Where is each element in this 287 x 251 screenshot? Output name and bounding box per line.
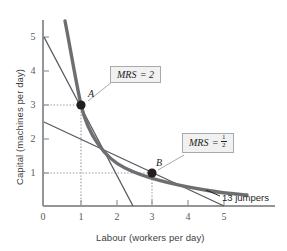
- tangent-line-at-a: [44, 37, 133, 206]
- mrs-callout-b: MRS = 1 2: [182, 133, 234, 153]
- y-tick-label-4: 4: [28, 66, 38, 76]
- x-tick-label-3: 3: [147, 212, 157, 222]
- isoquant-curve: [65, 21, 247, 195]
- x-axis-title: Labour (workers per day): [96, 232, 205, 243]
- mrs-a-value: 2: [149, 69, 154, 80]
- point-label-a: A: [88, 88, 94, 99]
- guide-lines-point-b: [44, 173, 152, 205]
- x-tick-label-4: 4: [183, 212, 193, 222]
- mrs-callout-a: MRS = 2: [110, 66, 161, 83]
- mrs-a-equals: =: [140, 69, 146, 80]
- mrs-b-fraction: 1 2: [221, 134, 227, 149]
- y-tick-label-2: 2: [28, 134, 38, 144]
- data-point-b: [147, 168, 156, 177]
- x-tick-label-0: 0: [38, 212, 48, 222]
- y-axis-title: Capital (machines per day): [14, 69, 25, 185]
- isoquant-chart-figure: 5 4 3 2 1 0 1 2 3 4 5 Capital (machines …: [0, 0, 287, 251]
- point-label-b: B: [156, 157, 162, 168]
- axes-group: [43, 20, 275, 206]
- mrs-b-equals: =: [212, 137, 218, 148]
- x-tick-label-5: 5: [219, 212, 229, 222]
- mrs-b-label: MRS: [189, 137, 208, 148]
- data-point-a: [76, 100, 85, 109]
- isoquant-curve-label: 13 jumpers: [222, 192, 269, 203]
- guide-lines-point-a: [44, 105, 81, 205]
- x-tick-label-1: 1: [76, 212, 86, 222]
- mrs-b-denominator: 2: [221, 142, 227, 149]
- mrs-a-label: MRS: [117, 69, 136, 80]
- y-tick-label-5: 5: [28, 32, 38, 42]
- y-tick-label-1: 1: [28, 168, 38, 178]
- x-tick-label-2: 2: [112, 212, 122, 222]
- y-tick-label-3: 3: [28, 100, 38, 110]
